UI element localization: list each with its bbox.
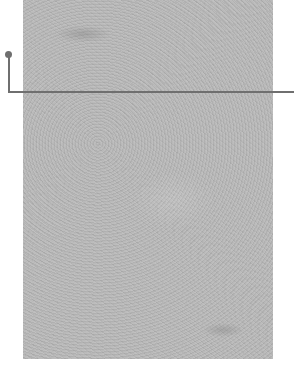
callout-leader-vertical <box>8 55 10 93</box>
textured-paper-panel <box>23 0 273 359</box>
callout-leader-horizontal <box>8 91 294 93</box>
